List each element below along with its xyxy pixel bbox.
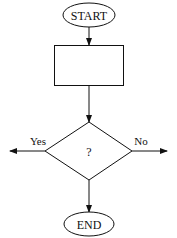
- start-label: START: [71, 9, 108, 23]
- decision-node: ?: [45, 122, 132, 180]
- decision-label: ?: [86, 145, 91, 159]
- end-node: END: [64, 212, 114, 236]
- no-label: No: [134, 135, 148, 147]
- flowchart: START ? Yes No END: [0, 0, 177, 238]
- yes-label: Yes: [30, 135, 46, 147]
- start-node: START: [63, 3, 115, 27]
- process-node: [55, 46, 124, 86]
- end-label: END: [77, 218, 102, 232]
